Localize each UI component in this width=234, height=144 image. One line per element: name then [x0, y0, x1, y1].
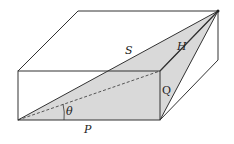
box-diagram: S H Q θ P: [0, 0, 234, 144]
label-S: S: [125, 44, 133, 57]
top-left-edge: [18, 11, 78, 71]
label-P: P: [83, 123, 92, 136]
apex-point: [217, 10, 220, 13]
label-theta: θ: [66, 105, 73, 118]
label-Q: Q: [162, 84, 171, 97]
label-H: H: [176, 40, 187, 53]
